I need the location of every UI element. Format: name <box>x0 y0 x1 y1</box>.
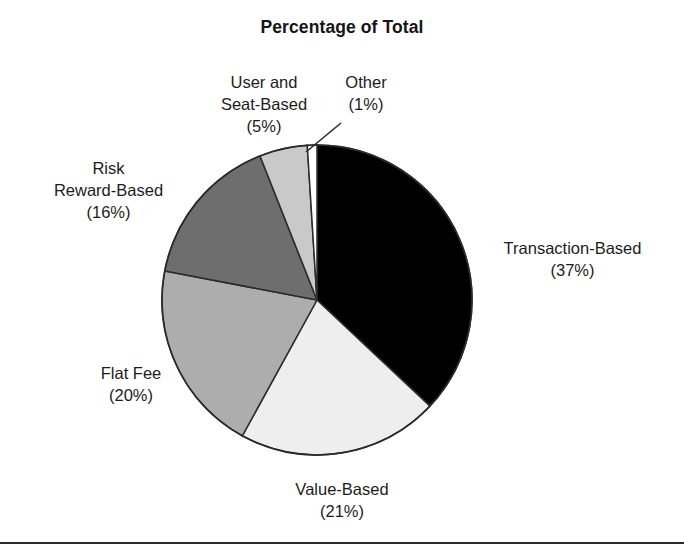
slice-label-line: Transaction-Based <box>470 237 675 259</box>
slice-label-value: (21%) <box>248 500 436 522</box>
slice-label-line: Risk <box>26 157 191 179</box>
slice-label-line: Seat-Based <box>203 93 325 115</box>
slice-label-line: Other <box>330 71 402 93</box>
slice-label-value: (16%) <box>26 201 191 223</box>
pie-chart-figure: Percentage of Total User and Seat-Based … <box>0 0 684 555</box>
slice-label-line: Flat Fee <box>62 362 200 384</box>
slice-label-user-and-seat-based: User and Seat-Based (5%) <box>203 71 325 137</box>
slice-label-value: (5%) <box>203 115 325 137</box>
slice-label-flat-fee: Flat Fee (20%) <box>62 362 200 406</box>
slice-label-line: Reward-Based <box>26 179 191 201</box>
slice-label-value: (37%) <box>470 259 675 281</box>
slice-label-line: Value-Based <box>248 478 436 500</box>
slice-label-risk-reward-based: Risk Reward-Based (16%) <box>26 157 191 223</box>
slice-label-transaction-based: Transaction-Based (37%) <box>470 237 675 281</box>
slice-label-other: Other (1%) <box>330 71 402 115</box>
slice-label-line: User and <box>203 71 325 93</box>
footer-divider <box>0 542 684 544</box>
slice-label-value: (1%) <box>330 93 402 115</box>
pie-slice-group <box>162 145 472 455</box>
slice-label-value-based: Value-Based (21%) <box>248 478 436 522</box>
slice-label-value: (20%) <box>62 384 200 406</box>
